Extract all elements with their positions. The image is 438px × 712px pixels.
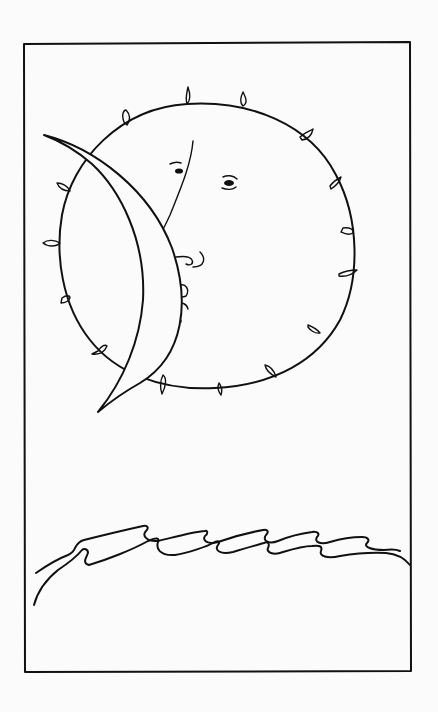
right-eye [224,180,234,186]
nose [176,256,193,264]
ray-icon [218,383,222,395]
artwork-canvas [0,0,438,712]
right-eyebrow [223,176,237,179]
ray-icon [186,87,190,104]
sun-rays [43,87,357,395]
wave-lower-edge [34,538,410,605]
ray-icon [308,325,320,333]
ray-icon [57,183,70,191]
ray-icon [43,240,60,246]
ray-icon [241,92,246,106]
moon-shape [44,135,182,412]
sun [43,87,357,395]
waves [34,526,410,605]
nostril [193,252,204,267]
ray-icon [300,129,313,140]
frame-border [24,42,411,672]
face-profile-line [160,141,193,236]
left-eyebrow [170,162,181,164]
right-eye-lower-lid [222,187,236,189]
line-drawing [0,0,438,712]
ray-icon [341,228,353,235]
left-eye [175,168,183,173]
crescent-moon [44,135,182,412]
frame [24,42,411,672]
